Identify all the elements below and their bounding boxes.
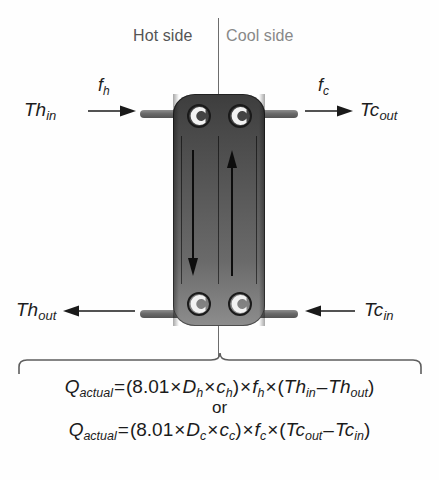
eq-cool-times-2: × (206, 419, 219, 440)
cool-flow-up-arrow-icon (225, 150, 239, 280)
equation-hot-side: Qactual=(8.01×Dh×ch)×fh×(Thin–Thout) (0, 376, 439, 397)
label-cool-outlet-temperature-sub: out (379, 108, 397, 123)
eq-cool-temp-out-sub: in (354, 429, 364, 443)
port-bottom-left-icon (186, 291, 212, 317)
label-hot-outlet-temperature-base: Th (16, 299, 38, 320)
heat-exchanger-diagram: Hot side Cool side (0, 0, 439, 480)
hot-flow-down-arrow-icon (186, 150, 200, 280)
port-top-left-icon (186, 103, 212, 129)
eq-hot-density: D (182, 376, 196, 397)
eq-cool-density-sub: c (200, 429, 206, 443)
eq-cool-times-3: × (241, 419, 254, 440)
eq-cool-equals: = (117, 419, 130, 440)
eq-hot-flow-sub: h (257, 386, 264, 400)
label-cool-inlet-temperature-sub: in (383, 308, 393, 323)
eq-hot-temp-out-sub: out (351, 386, 368, 400)
equation-connector: or (0, 397, 439, 418)
eq-hot-heatcap: c (216, 376, 226, 397)
eq-cool-heatcap-sub: c (229, 429, 235, 443)
label-hot-flow-rate: fh (98, 75, 110, 96)
hot-outlet-arrow-icon (63, 304, 135, 322)
eq-hot-temp-in-sub: in (306, 386, 316, 400)
port-bottom-right-icon (227, 291, 253, 317)
eq-hot-temp-out: Th (328, 376, 350, 397)
label-cool-flow-rate: fc (318, 75, 329, 96)
label-hot-inlet-temperature-sub: in (46, 108, 56, 123)
label-cool-inlet-temperature: Tcin (364, 299, 394, 321)
hot-inlet-arrow-icon (88, 104, 136, 122)
eq-cool-constant: 8.01 (136, 419, 173, 440)
cool-inlet-arrow-icon (305, 304, 355, 322)
cool-outlet-arrow-icon (305, 104, 353, 122)
eq-hot-heatcap-sub: h (226, 386, 233, 400)
eq-hot-close-paren-2: ) (368, 376, 374, 397)
eq-cool-q-sub: actual (83, 429, 116, 443)
eq-hot-density-sub: h (196, 386, 203, 400)
eq-hot-equals: = (113, 376, 126, 397)
label-cool-outlet-temperature: Tcout (360, 99, 397, 121)
eq-cool-heatcap: c (219, 419, 229, 440)
eq-cool-minus: – (322, 419, 335, 440)
cool-side-label: Cool side (226, 27, 294, 45)
label-hot-inlet-temperature-base: Th (24, 99, 46, 120)
body-edge-shade-right (259, 94, 265, 326)
eq-hot-times-4: × (264, 376, 277, 397)
eq-hot-q: Q (65, 376, 80, 397)
label-cool-inlet-temperature-base: Tc (364, 299, 383, 320)
body-edge-shade-left (173, 94, 179, 326)
port-top-right-icon (227, 103, 253, 129)
eq-cool-flow-sub: c (260, 429, 266, 443)
eq-hot-minus: – (316, 376, 329, 397)
hot-side-label: Hot side (133, 27, 193, 45)
eq-hot-constant: 8.01 (132, 376, 169, 397)
eq-hot-q-sub: actual (80, 386, 113, 400)
plate-line-1 (181, 136, 182, 284)
eq-cool-temp-in-sub: out (305, 429, 322, 443)
eq-cool-q: Q (69, 419, 84, 440)
plate-line-3 (256, 136, 257, 284)
eq-hot-times-2: × (203, 376, 216, 397)
eq-cool-density: D (186, 419, 200, 440)
eq-cool-close-paren-2: ) (364, 419, 370, 440)
label-hot-outlet-temperature-sub: out (38, 308, 56, 323)
label-cool-flow-rate-sub: c (323, 84, 329, 98)
equation-brace (18, 352, 422, 374)
label-hot-outlet-temperature: Thout (16, 299, 56, 321)
eq-cool-times-4: × (266, 419, 279, 440)
eq-cool-temp-out: Tc (335, 419, 354, 440)
label-cool-outlet-temperature-base: Tc (360, 99, 379, 120)
equation-block: Qactual=(8.01×Dh×ch)×fh×(Thin–Thout) or … (0, 376, 439, 440)
eq-hot-temp-in: Th (284, 376, 306, 397)
eq-hot-times-3: × (239, 376, 252, 397)
eq-cool-times-1: × (173, 419, 186, 440)
equation-cool-side: Qactual=(8.01×Dc×cc)×fc×(Tcout–Tcin) (0, 419, 439, 440)
eq-cool-temp-in: Tc (286, 419, 305, 440)
label-hot-flow-rate-sub: h (103, 84, 110, 98)
eq-hot-times-1: × (169, 376, 182, 397)
label-hot-inlet-temperature: Thin (24, 99, 56, 121)
plate-line-2 (218, 136, 219, 284)
